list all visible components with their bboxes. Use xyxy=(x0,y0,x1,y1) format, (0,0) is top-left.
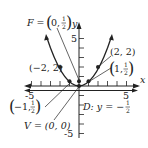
point-1-half xyxy=(87,79,91,83)
svg-text:D: y = −: D: y = − xyxy=(82,101,124,112)
point-1-half-leader xyxy=(90,68,111,81)
svg-text:F =: F = xyxy=(26,17,45,28)
svg-text:0,: 0, xyxy=(51,17,60,28)
x-axis: x -5 5 xyxy=(24,74,146,101)
point-1-half-label: ( 1, 1 2 ) xyxy=(109,59,134,78)
y-tick-pos5: 5 xyxy=(71,33,77,44)
parabola-diagram: x -5 5 y 5 -5 xyxy=(0,0,148,148)
svg-text:−1,: −1, xyxy=(14,101,31,112)
point-neg2-2-label: (−2, 2) xyxy=(29,62,63,73)
x-axis-right-arrow-icon xyxy=(133,84,140,89)
directrix-right-arrow-icon xyxy=(132,89,138,93)
x-axis-label: x xyxy=(140,74,146,85)
x-axis-left-arrow-icon xyxy=(24,84,31,89)
svg-text:1,: 1, xyxy=(114,63,123,74)
directrix-label: D: y = − 1 2 xyxy=(82,99,130,114)
svg-text:1: 1 xyxy=(126,99,130,106)
svg-text:): ) xyxy=(35,97,41,116)
svg-text:): ) xyxy=(66,13,72,32)
parabola-right-arrow-icon xyxy=(109,34,114,41)
focus-label: F = ( 0, 1 2 ) xyxy=(26,13,72,32)
svg-text:2: 2 xyxy=(126,107,130,114)
vertex-point xyxy=(77,84,81,88)
vertex-label: V = (0, 0) xyxy=(24,120,71,131)
svg-text:): ) xyxy=(128,59,134,78)
vertex-leader xyxy=(54,88,78,120)
point-2-2-label: (2, 2) xyxy=(110,46,136,57)
parabola-left-arrow-icon xyxy=(44,34,49,41)
point-neg1-half xyxy=(68,79,72,83)
